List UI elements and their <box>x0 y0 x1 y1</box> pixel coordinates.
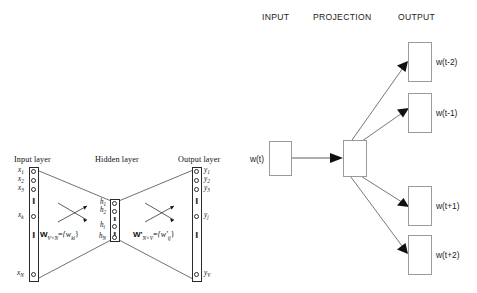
skipgram-output-label-1: w(t-2) <box>436 57 457 67</box>
input-unit-label-3: x3 <box>18 184 24 193</box>
output-unit-label-3: y3 <box>204 184 210 193</box>
hidden-unit-label-i: hi <box>100 221 105 230</box>
input-layer-column <box>29 167 39 282</box>
left-crossing-arrows <box>58 203 87 222</box>
weight-matrix-hidden-output: W'N×V={w'ij} <box>133 230 175 241</box>
output-ellipsis-lower: ••• <box>194 232 199 239</box>
input-unit-label-N: xN <box>17 269 24 278</box>
skipgram-output-label-3: w(t+1) <box>436 201 460 211</box>
right-crossing-arrows <box>145 203 174 222</box>
skipgram-projection-box <box>343 140 367 177</box>
hidden-unit-label-2: h2 <box>100 206 106 215</box>
output-unit-label-j: yj <box>204 211 209 220</box>
output-ellipsis-upper: ••• <box>194 198 199 205</box>
skipgram-input-label: w(t) <box>250 154 264 164</box>
skipgram-input-box <box>269 141 292 176</box>
skip-gram-diagram: INPUT PROJECTION OUTPUT <box>250 0 477 293</box>
output-unit-label-V: yV <box>204 269 210 278</box>
input-ellipsis-upper: ••• <box>31 198 36 205</box>
output-layer-column <box>192 167 202 282</box>
cbow-network-diagram: Input layer Hidden layer Output layer <box>0 0 250 293</box>
input-unit-label-k: xk <box>18 211 24 220</box>
input-ellipsis-lower: ••• <box>31 232 36 239</box>
arrow-projection-to-output-1 <box>345 61 408 150</box>
skipgram-output-box-4 <box>408 235 432 275</box>
weight-matrix-input-hidden: WV×N={wki} <box>40 230 79 241</box>
figure-canvas: Input layer Hidden layer Output layer <box>0 0 477 293</box>
arrow-projection-to-output-4 <box>345 169 408 254</box>
arrow-input-to-projection <box>292 153 343 163</box>
skipgram-output-label-4: w(t+2) <box>436 250 460 260</box>
hidden-ellipsis-upper: •• <box>112 217 117 221</box>
hidden-unit-label-N: hN <box>99 232 106 241</box>
skipgram-output-box-1 <box>408 42 432 82</box>
skipgram-output-box-3 <box>408 186 432 226</box>
skipgram-output-label-2: w(t-1) <box>436 108 457 118</box>
skipgram-output-box-2 <box>408 93 432 133</box>
